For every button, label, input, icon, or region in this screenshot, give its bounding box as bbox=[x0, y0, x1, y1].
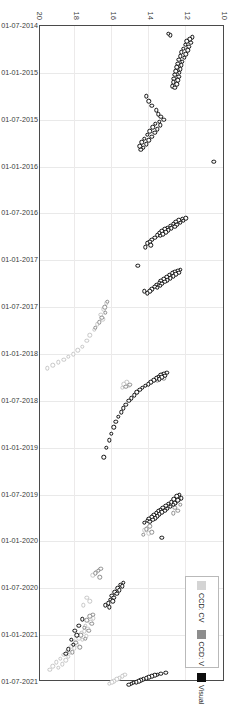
data-point bbox=[101, 455, 106, 460]
data-point bbox=[150, 530, 155, 535]
x-axis-tick-label: 01-01-2017 bbox=[1, 255, 38, 264]
data-point bbox=[76, 624, 81, 629]
data-point bbox=[124, 385, 129, 390]
legend-label-visual: Visual bbox=[198, 685, 207, 704]
data-point bbox=[105, 299, 110, 304]
data-point bbox=[54, 660, 59, 665]
x-axis-tick-label: 01-07-2021 bbox=[1, 677, 38, 686]
data-point bbox=[107, 682, 112, 687]
legend: CCD: CV CCD: V Visual bbox=[185, 576, 219, 668]
x-axis-tick-label: 01-07-2019 bbox=[1, 489, 38, 498]
data-point bbox=[171, 511, 176, 516]
data-point bbox=[63, 652, 68, 657]
x-axis-tick-label: 01-07-2020 bbox=[1, 583, 38, 592]
data-point bbox=[107, 438, 112, 443]
data-point bbox=[155, 285, 160, 290]
data-point bbox=[76, 348, 81, 353]
data-point bbox=[148, 519, 153, 524]
data-point bbox=[48, 668, 53, 673]
data-point bbox=[138, 147, 143, 152]
grid-line-vertical bbox=[40, 167, 223, 168]
data-point bbox=[158, 234, 163, 239]
data-point bbox=[149, 243, 154, 248]
data-point bbox=[75, 633, 80, 638]
legend-item: CCD: V bbox=[198, 630, 207, 666]
x-axis-tick-label: 01-01-2015 bbox=[1, 67, 38, 76]
data-point bbox=[150, 103, 155, 108]
x-axis-tick-label: 01-07-2014 bbox=[1, 21, 38, 30]
grid-line-vertical bbox=[40, 307, 223, 308]
legend-swatch-visual bbox=[198, 673, 207, 682]
data-point bbox=[63, 658, 68, 663]
x-axis-tick-label: 01-07-2015 bbox=[1, 114, 38, 123]
data-point bbox=[88, 599, 93, 604]
data-point bbox=[136, 264, 141, 269]
data-point bbox=[175, 508, 180, 513]
data-point bbox=[116, 415, 121, 420]
y-axis-tick-label: 10 bbox=[220, 12, 229, 20]
data-point bbox=[71, 352, 76, 357]
data-point bbox=[66, 647, 71, 652]
data-point bbox=[77, 645, 82, 650]
data-point bbox=[103, 311, 108, 316]
legend-item: CCD: CV bbox=[198, 581, 207, 623]
legend-label-ccd-cv: CCD: CV bbox=[198, 593, 207, 623]
y-axis-tick-label: 14 bbox=[146, 12, 155, 20]
data-point bbox=[109, 431, 114, 436]
data-point bbox=[211, 160, 216, 165]
grid-line-vertical bbox=[40, 120, 223, 121]
x-axis-date: 01-07-201401-01-201501-07-201501-01-2016… bbox=[2, 25, 38, 681]
data-point bbox=[97, 320, 102, 325]
data-point bbox=[87, 628, 92, 633]
data-point bbox=[89, 622, 94, 627]
grid-line-horizontal bbox=[111, 26, 112, 680]
data-point bbox=[58, 656, 63, 661]
x-axis-tick-label: 01-01-2016 bbox=[1, 161, 38, 170]
grid-line-vertical bbox=[40, 260, 223, 261]
data-point bbox=[157, 377, 162, 382]
data-point bbox=[141, 533, 146, 538]
x-axis-tick-label: 01-01-2019 bbox=[1, 442, 38, 451]
data-point bbox=[163, 670, 168, 675]
data-point bbox=[71, 642, 76, 647]
data-point bbox=[142, 289, 147, 294]
grid-line-vertical bbox=[40, 401, 223, 402]
data-point bbox=[51, 363, 56, 368]
data-point bbox=[56, 666, 61, 671]
data-point bbox=[144, 527, 149, 532]
data-point bbox=[85, 339, 90, 344]
legend-swatch-ccd-v bbox=[198, 630, 207, 639]
data-point bbox=[144, 94, 149, 99]
data-point bbox=[80, 344, 85, 349]
grid-line-vertical bbox=[40, 213, 223, 214]
y-axis-tick-label: 18 bbox=[72, 12, 81, 20]
legend-swatch-ccd-cv bbox=[198, 581, 207, 590]
data-point bbox=[56, 360, 61, 365]
data-point bbox=[66, 355, 71, 360]
data-point bbox=[83, 637, 88, 642]
data-point bbox=[45, 366, 50, 371]
data-point bbox=[173, 86, 178, 91]
data-point bbox=[178, 503, 183, 508]
x-axis-tick-label: 01-01-2018 bbox=[1, 349, 38, 358]
y-axis-tick-label: 16 bbox=[109, 12, 118, 20]
data-point bbox=[166, 31, 171, 36]
legend-item: Visual bbox=[198, 673, 207, 704]
y-axis-tick-label: 12 bbox=[183, 12, 192, 20]
data-point bbox=[143, 245, 148, 250]
x-axis-tick-label: 01-07-2018 bbox=[1, 395, 38, 404]
x-axis-tick-label: 01-07-2016 bbox=[1, 208, 38, 217]
y-axis-magnitude: 101214161820 bbox=[39, 0, 224, 23]
data-point bbox=[98, 575, 103, 580]
data-point bbox=[62, 357, 67, 362]
data-point bbox=[88, 333, 93, 338]
x-axis-tick-label: 01-07-2017 bbox=[1, 302, 38, 311]
data-point bbox=[142, 520, 147, 525]
data-point bbox=[107, 605, 112, 610]
data-point bbox=[160, 535, 165, 540]
data-point bbox=[104, 445, 109, 450]
data-point bbox=[113, 419, 118, 424]
grid-line-vertical bbox=[40, 448, 223, 449]
light-curve-chart: 01-07-201401-01-201501-07-201501-01-2016… bbox=[0, 0, 239, 723]
data-point bbox=[112, 425, 117, 430]
